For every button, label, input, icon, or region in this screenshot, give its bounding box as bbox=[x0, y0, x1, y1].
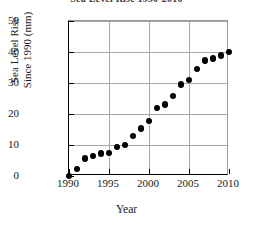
x-axis-tick-label: 1990 bbox=[46, 178, 90, 189]
data-point bbox=[202, 57, 208, 63]
x-axis-title: Year bbox=[0, 203, 253, 215]
gridline-horizontal bbox=[69, 114, 227, 115]
data-point bbox=[74, 166, 80, 172]
data-point bbox=[170, 93, 176, 99]
y-axis-tick bbox=[69, 21, 74, 22]
chart-title: Sea Level Rise 1990-2010 bbox=[0, 0, 253, 2]
data-point bbox=[226, 49, 232, 55]
chart-figure: Sea Level Rise 1990-2010 Sea Level Rise … bbox=[0, 0, 253, 230]
data-point bbox=[210, 55, 216, 61]
x-axis-tick bbox=[109, 169, 110, 174]
gridline-vertical bbox=[189, 21, 190, 174]
y-axis-tick bbox=[69, 52, 74, 53]
y-axis-tick bbox=[69, 114, 74, 115]
data-point bbox=[122, 142, 128, 148]
plot-area bbox=[68, 20, 228, 175]
gridline-vertical bbox=[149, 21, 150, 174]
data-point bbox=[194, 66, 200, 72]
data-point bbox=[82, 155, 88, 161]
x-axis-tick-label: 2000 bbox=[126, 178, 170, 189]
x-axis-tick-label: 2010 bbox=[206, 178, 250, 189]
data-point bbox=[106, 150, 112, 156]
x-axis-tick-label: 2005 bbox=[166, 178, 210, 189]
data-point bbox=[98, 150, 104, 156]
data-point bbox=[178, 81, 184, 87]
data-point bbox=[146, 118, 152, 124]
x-axis-tick bbox=[149, 169, 150, 174]
data-point bbox=[130, 133, 136, 139]
y-axis-tick-label: 20 bbox=[0, 108, 19, 119]
y-axis-tick-label: 10 bbox=[0, 139, 19, 150]
x-axis-tick-label: 1995 bbox=[86, 178, 130, 189]
y-axis-tick bbox=[69, 145, 74, 146]
gridline-horizontal bbox=[69, 83, 227, 84]
data-point bbox=[90, 153, 96, 159]
x-axis-tick bbox=[189, 169, 190, 174]
y-axis-tick-label: 40 bbox=[0, 46, 19, 57]
gridline-horizontal bbox=[69, 21, 227, 22]
y-axis-tick bbox=[69, 83, 74, 84]
data-point bbox=[154, 105, 160, 111]
data-point bbox=[138, 125, 144, 131]
y-axis-tick-label: 0 bbox=[0, 170, 19, 181]
y-axis-title-line-2: Since 1990 (mm) bbox=[21, 0, 34, 125]
gridline-horizontal bbox=[69, 52, 227, 53]
data-point bbox=[114, 144, 120, 150]
data-point bbox=[162, 101, 168, 107]
y-axis-tick-label: 50 bbox=[0, 15, 19, 26]
x-axis-tick bbox=[229, 169, 230, 174]
gridline-horizontal bbox=[69, 145, 227, 146]
data-point bbox=[218, 52, 224, 58]
y-axis-tick-label: 30 bbox=[0, 77, 19, 88]
